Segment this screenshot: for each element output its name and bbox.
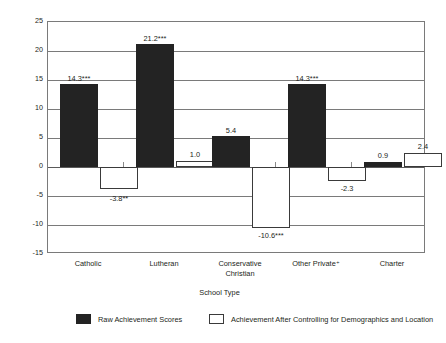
bar-label-adj-conservative-christian: -10.6*** [241,231,301,240]
x-tick-label-other-private: Other Private⁺ [278,259,354,269]
y-tick-label: 0 [9,162,43,170]
x-tick-label-catholic: Catholic [50,259,126,269]
bar-raw-charter [364,162,402,167]
legend-item-adjusted-achievement: Achievement After Controlling for Demogr… [209,312,433,326]
y-tick-label: 20 [9,46,43,54]
bar-label-raw-other-private: 14.3*** [277,74,337,83]
gridline-10 [48,109,424,110]
plot-area: 14.3*** -3.8** 21.2*** 1.0 5.4 -10.6*** … [47,21,425,253]
bar-label-adj-charter: 2.4 [393,142,446,151]
legend-swatch-light [209,314,224,324]
bar-raw-conservative-christian [212,136,250,167]
legend-swatch-dark [76,314,91,324]
bar-adj-conservative-christian [252,167,290,228]
x-axis-title: School Type [0,288,439,297]
y-tick-label: -15 [9,249,43,257]
x-tick-label-lutheran: Lutheran [126,259,202,269]
gridline-20 [48,51,424,52]
x-tick-label-charter: Charter [354,259,430,269]
bar-label-raw-catholic: 14.3*** [49,74,109,83]
legend-item-raw-achievement: Raw Achievement Scores [76,312,182,326]
bar-raw-lutheran [136,44,174,167]
bar-adj-catholic [100,167,138,189]
y-tick-label: 25 [9,17,43,25]
bar-adj-lutheran [176,161,214,167]
x-tick-label-conservative-christian: Conservative Christian [202,259,278,278]
bar-label-raw-conservative-christian: 5.4 [201,126,261,135]
bar-label-adj-other-private: -2.3 [317,184,377,193]
bar-label-adj-catholic: -3.8** [89,194,149,203]
y-tick-label: 10 [9,104,43,112]
bar-label-raw-lutheran: 21.2*** [125,34,185,43]
legend-label-raw-achievement: Raw Achievement Scores [98,315,182,324]
y-tick-label: 15 [9,75,43,83]
bar-raw-other-private [288,84,326,167]
y-tick-label: -5 [9,191,43,199]
bar-raw-catholic [60,84,98,167]
y-tick-label: 5 [9,133,43,141]
bar-adj-other-private [328,167,366,181]
gridline-minus10 [48,225,424,226]
chart-legend: Raw Achievement Scores Achievement After… [0,312,439,330]
y-tick-label: -10 [9,220,43,228]
bar-adj-charter [404,153,442,167]
legend-label-adjusted-achievement: Achievement After Controlling for Demogr… [231,315,433,324]
